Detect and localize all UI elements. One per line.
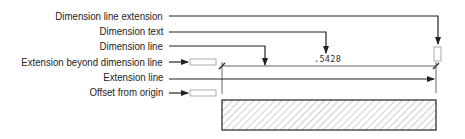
leader-offset-from-origin: [169, 90, 216, 96]
extension-beyond-box-right: [434, 47, 441, 61]
hatched-part: [222, 100, 436, 130]
leader-dimension-line-extension: [169, 16, 438, 44]
diagram-graphics: [0, 0, 465, 139]
leader-extension-beyond: [169, 59, 216, 65]
leader-dimension-text: [169, 32, 326, 53]
offset-box: [190, 90, 216, 96]
dimension-anatomy-diagram: Dimension line extension Dimension text …: [0, 0, 465, 139]
extension-beyond-box-left: [190, 59, 216, 65]
